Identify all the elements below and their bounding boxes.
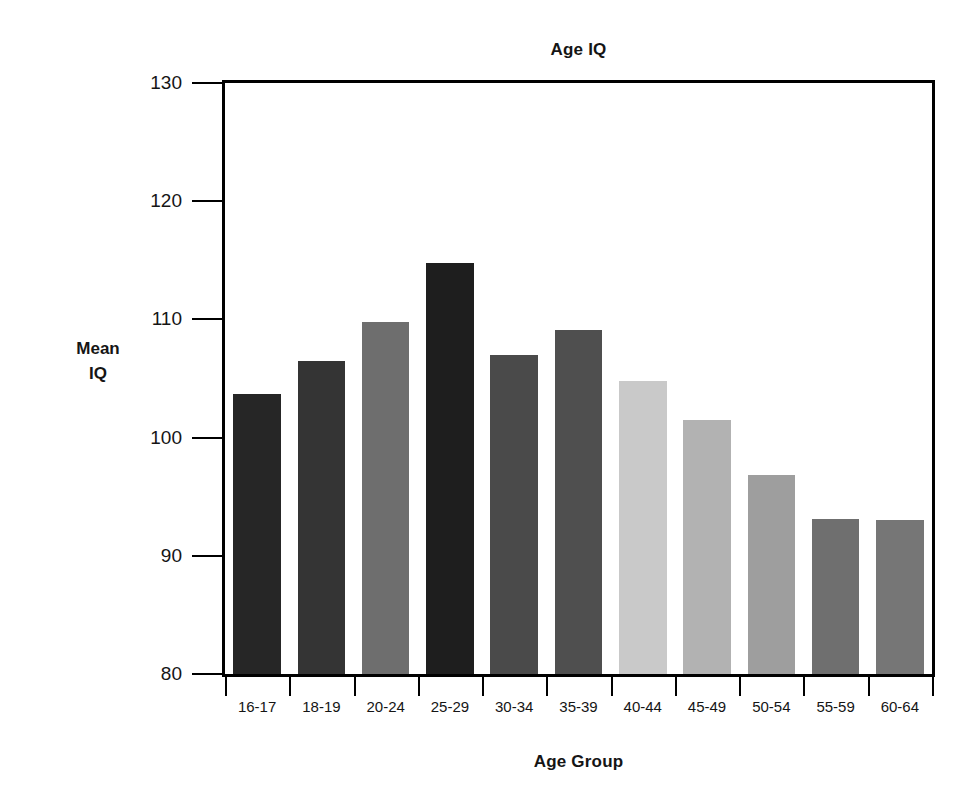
chart-figure: Age IQ Mean IQ Age Group 809010011012013… xyxy=(0,0,980,809)
bar xyxy=(876,520,924,674)
x-axis-tick-label: 60-64 xyxy=(855,698,945,715)
y-axis-tick-label: 130 xyxy=(122,72,182,94)
y-axis-tick xyxy=(192,82,222,84)
bar xyxy=(683,420,731,674)
bar xyxy=(233,394,281,674)
x-axis-tick xyxy=(225,677,227,696)
bar xyxy=(555,330,603,674)
x-axis-tick xyxy=(803,677,805,696)
x-axis-tick xyxy=(611,677,613,696)
plot-frame xyxy=(222,80,935,677)
y-axis-tick xyxy=(192,437,222,439)
y-axis-tick-label: 90 xyxy=(122,545,182,567)
x-axis-tick xyxy=(868,677,870,696)
bar xyxy=(298,361,346,674)
x-axis-tick xyxy=(546,677,548,696)
x-axis-tick xyxy=(289,677,291,696)
y-axis-tick-label: 100 xyxy=(122,427,182,449)
y-axis-tick-label: 110 xyxy=(122,308,182,330)
y-axis-tick xyxy=(192,555,222,557)
bar xyxy=(619,381,667,674)
y-axis-tick xyxy=(192,318,222,320)
x-axis-tick xyxy=(482,677,484,696)
x-axis-tick xyxy=(932,677,934,696)
plot-area xyxy=(225,83,932,674)
y-axis-tick-label: 120 xyxy=(122,190,182,212)
bar xyxy=(362,322,410,674)
x-axis-tick xyxy=(354,677,356,696)
bar xyxy=(748,475,796,674)
x-axis-title: Age Group xyxy=(222,752,935,772)
y-axis-tick xyxy=(192,200,222,202)
bar xyxy=(812,519,860,674)
x-axis-tick xyxy=(675,677,677,696)
y-axis-tick xyxy=(192,673,222,675)
bar xyxy=(490,355,538,674)
y-axis-tick-labels: 8090100110120130 xyxy=(112,0,182,809)
x-axis-tick xyxy=(418,677,420,696)
x-axis-tick xyxy=(739,677,741,696)
bar xyxy=(426,263,474,674)
chart-title: Age IQ xyxy=(222,40,935,60)
y-axis-tick-label: 80 xyxy=(122,663,182,685)
